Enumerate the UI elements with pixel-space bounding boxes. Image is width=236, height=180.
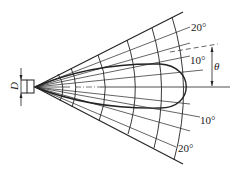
transducer — [20, 68, 35, 106]
main-lobe — [35, 64, 186, 108]
theta-label: θ — [214, 60, 220, 72]
angle-label-upper-20: 20° — [191, 21, 206, 33]
theta-reference-line — [170, 44, 218, 52]
beam-boundaries — [35, 12, 183, 164]
angle-label-lower-20: 20° — [178, 142, 193, 154]
distance-arcs — [58, 17, 184, 160]
diameter-label: D — [8, 82, 20, 91]
angle-label-upper-10: 10° — [190, 54, 205, 66]
angle-label-lower-10: 10° — [200, 114, 215, 126]
beam-pattern-diagram: D θ 20° 10° 10° 20° — [0, 0, 236, 180]
